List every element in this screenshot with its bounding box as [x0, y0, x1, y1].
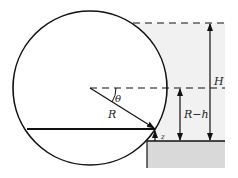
z-label: z [160, 133, 165, 141]
ground-block [147, 141, 225, 168]
h-label: H [213, 75, 224, 88]
r-minus-h-label: R−h [183, 108, 209, 121]
theta-label: θ [115, 93, 121, 104]
radius-label: R [107, 108, 116, 121]
diagram-canvas: θ R R−h H z [0, 0, 238, 178]
